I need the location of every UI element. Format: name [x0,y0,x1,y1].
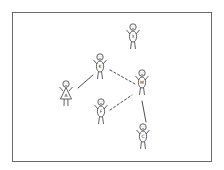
person-node-x: X [127,24,140,49]
edges-layer [78,70,146,122]
right-leg [145,142,146,150]
eye-icon [102,101,103,102]
left-arm [127,30,131,34]
left-arm [95,105,99,109]
edge-f-m-dashed [110,95,132,110]
left-leg [141,142,142,150]
right-arm [69,87,73,91]
right-arm [103,60,107,64]
eye-icon [101,56,102,57]
node-label: M [140,80,144,85]
right-arm [136,30,140,34]
eye-icon [144,126,145,127]
eye-icon [132,26,133,27]
left-leg [140,88,141,96]
left-arm [136,76,140,80]
edge-a-k-solid [78,75,93,88]
eye-icon [65,83,66,84]
node-label: C [141,134,144,139]
diagram-canvas: XKAMFC [0,0,224,170]
person-node-f: F [95,99,108,124]
eye-icon [134,26,135,27]
nodes-layer: XKAMFC [60,24,150,149]
node-label: X [131,34,134,39]
left-leg [99,117,100,125]
node-label: F [100,109,103,114]
right-leg [135,42,136,50]
eye-icon [99,56,100,57]
head-icon [139,70,145,76]
left-arm [137,130,141,134]
edge-m-c-solid [142,101,146,122]
right-arm [104,105,108,109]
eye-icon [143,72,144,73]
right-leg [144,88,145,96]
person-node-c: C [137,124,150,149]
right-arm [146,130,150,134]
eye-icon [67,83,68,84]
head-icon [98,99,104,105]
eye-icon [100,101,101,102]
right-leg [102,72,103,80]
left-arm [60,87,64,91]
head-icon [97,54,103,60]
left-leg [98,72,99,80]
network-graph: XKAMFC [0,0,224,170]
right-arm [145,76,149,80]
head-icon [130,24,136,30]
eye-icon [142,126,143,127]
right-leg [103,117,104,125]
eye-icon [141,72,142,73]
person-node-m: M [136,70,149,95]
left-leg [131,42,132,50]
person-node-a: A [60,81,73,106]
person-node-k: K [94,54,107,79]
edge-k-m-dashed [110,70,135,84]
left-arm [94,60,98,64]
head-icon [63,81,69,87]
head-icon [140,124,146,130]
